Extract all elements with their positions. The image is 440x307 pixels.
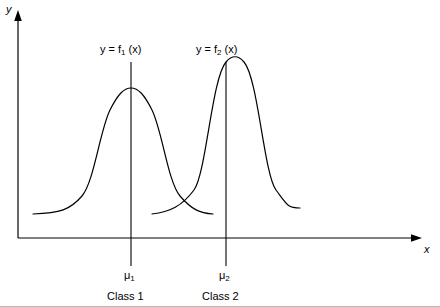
y-axis-label: y	[6, 4, 12, 15]
curve-1-label: y = f1 (x)	[100, 44, 141, 57]
figure-canvas: y x y = f1 (x) y = f2 (x) μ1 μ2 Class 1 …	[0, 0, 440, 307]
x-axis-label: x	[424, 244, 430, 255]
x-axis	[18, 234, 422, 242]
y-axis	[14, 10, 22, 238]
curve-1-label-prefix: y = f	[100, 43, 121, 55]
mu-2-label: μ2	[219, 270, 230, 283]
curve-1-label-suffix: (x)	[126, 43, 142, 55]
curve-2-label-suffix: (x)	[222, 43, 238, 55]
class-2-label: Class 2	[202, 291, 239, 302]
curve-1-path	[33, 88, 213, 214]
mu-2-subscript: 2	[225, 274, 229, 283]
curve-2-label: y = f2 (x)	[196, 44, 237, 57]
class-1-label: Class 1	[107, 291, 144, 302]
curve-2-label-prefix: y = f	[196, 43, 217, 55]
mu-1-label: μ1	[124, 270, 135, 283]
mu-1-subscript: 1	[130, 274, 134, 283]
